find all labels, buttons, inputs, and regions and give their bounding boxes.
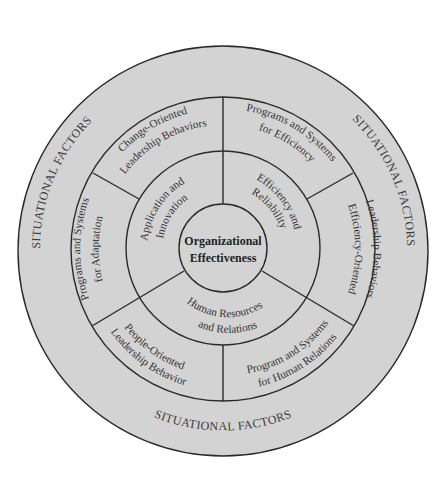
center-label-line1: Organizational	[184, 234, 262, 248]
center-circle	[179, 204, 267, 292]
effectiveness-diagram: SITUATIONAL FACTORS SITUATIONAL FACTORS …	[0, 0, 448, 485]
center-label-line2: Effectiveness	[190, 251, 257, 265]
